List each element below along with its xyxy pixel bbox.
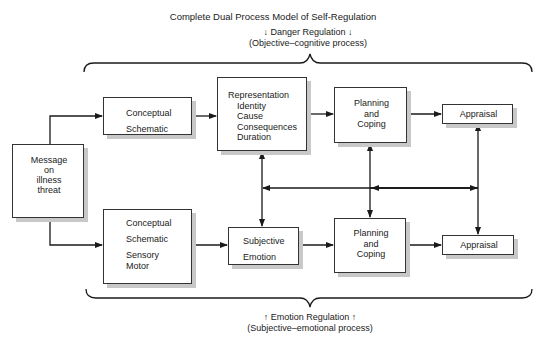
emotion-label: Emotion bbox=[243, 249, 285, 265]
top-planning-box: Planning and Coping bbox=[334, 87, 407, 143]
schematic-label: Schematic bbox=[126, 121, 172, 137]
message-line: threat bbox=[13, 185, 85, 195]
message-line: illness bbox=[13, 175, 85, 185]
planning-label: Planning bbox=[335, 228, 407, 239]
conceptual-label: Conceptual bbox=[126, 105, 172, 121]
coping-label: Coping bbox=[335, 249, 407, 260]
subjective-label: Subjective bbox=[243, 233, 285, 249]
bottom-appraisal-box: Appraisal bbox=[442, 235, 514, 255]
bottom-conceptual-box: Conceptual Schematic Sensory Motor bbox=[103, 209, 192, 284]
and-label: and bbox=[335, 239, 407, 250]
planning-label: Planning bbox=[335, 98, 408, 109]
and-label: and bbox=[335, 109, 408, 120]
appraisal-label: Appraisal bbox=[443, 109, 514, 120]
coping-label: Coping bbox=[335, 119, 408, 130]
message-line: on bbox=[13, 165, 85, 175]
representation-box: Representation Identity Cause Consequenc… bbox=[217, 77, 307, 151]
top-appraisal-box: Appraisal bbox=[442, 104, 513, 124]
motor-label: Motor bbox=[126, 261, 172, 272]
appraisal-label: Appraisal bbox=[443, 240, 515, 251]
bottom-brace bbox=[86, 289, 532, 307]
cause-label: Cause bbox=[228, 111, 297, 122]
message-line: Message bbox=[13, 155, 85, 165]
message-box: Message on illness threat bbox=[12, 144, 84, 218]
representation-label: Representation bbox=[228, 90, 297, 101]
top-conceptual-box: Conceptual Schematic bbox=[103, 97, 192, 135]
identity-label: Identity bbox=[228, 101, 297, 112]
top-brace bbox=[84, 54, 532, 72]
conceptual-label: Conceptual bbox=[126, 218, 172, 229]
schematic-label: Schematic bbox=[126, 234, 172, 245]
subjective-emotion-box: Subjective Emotion bbox=[228, 227, 299, 265]
sensory-label: Sensory bbox=[126, 250, 172, 261]
bottom-planning-box: Planning and Coping bbox=[334, 218, 406, 273]
duration-label: Duration bbox=[228, 132, 297, 143]
consequences-label: Consequences bbox=[228, 122, 297, 133]
